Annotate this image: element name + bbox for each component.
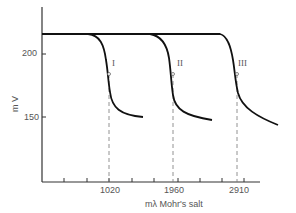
curves bbox=[42, 34, 278, 125]
y-tick-label-150: 150 bbox=[24, 113, 39, 122]
x-tick-label-2910: 2910 bbox=[229, 186, 249, 195]
y-tick-label-200: 200 bbox=[22, 49, 37, 58]
equivalence-points bbox=[108, 73, 239, 76]
titration-chart bbox=[0, 0, 296, 213]
curve-label-I: I bbox=[112, 58, 115, 68]
curve-I bbox=[42, 34, 143, 117]
curve-III bbox=[150, 34, 278, 125]
curve-label-III: III bbox=[238, 58, 247, 68]
x-axis-label: mλ Mohr's salt bbox=[145, 200, 203, 209]
x-tick-label-1960: 1960 bbox=[164, 186, 184, 195]
curve-II bbox=[88, 34, 212, 120]
curve-label-II: II bbox=[177, 58, 183, 68]
y-axis-label: m V bbox=[10, 96, 20, 112]
x-tick-label-1020: 1020 bbox=[100, 186, 120, 195]
